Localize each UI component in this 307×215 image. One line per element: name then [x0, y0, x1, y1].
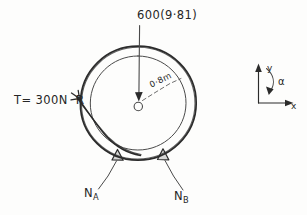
reaction-a-subscript: A — [93, 192, 99, 202]
reaction-b-label: NB — [174, 189, 189, 205]
reaction-a-symbol: N — [84, 186, 93, 200]
center-point-marker — [134, 102, 142, 110]
angle-alpha-label: α — [278, 76, 285, 87]
wheel-outer-rim — [80, 46, 196, 160]
reaction-a-label: NA — [84, 186, 99, 202]
support-reaction-b — [158, 149, 184, 190]
reaction-b-subscript: B — [183, 195, 189, 205]
coordinate-axes — [255, 64, 293, 107]
wheel-inner-circle — [90, 56, 186, 150]
diagram-canvas: 600(9·81) T= 300N R 0·8m O NA NB y x α — [0, 0, 307, 215]
weight-force-arrow — [135, 26, 143, 102]
axis-x-label: x — [291, 101, 297, 111]
tension-value: T= 300N — [14, 93, 68, 107]
tension-point-label: R — [76, 93, 85, 107]
axis-y-label: y — [267, 63, 273, 73]
weight-force-label: 600(9·81) — [137, 8, 197, 22]
sketch-drawing — [0, 0, 307, 215]
reaction-b-symbol: N — [174, 189, 183, 203]
support-reaction-a — [99, 150, 124, 190]
tension-label: T= 300N R — [14, 93, 84, 107]
